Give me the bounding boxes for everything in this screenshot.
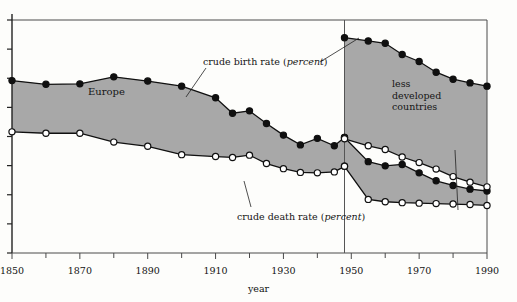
annotation-leader-line — [244, 181, 251, 207]
data-point-filled — [297, 142, 303, 148]
data-point-filled — [331, 143, 337, 149]
data-point-open — [280, 166, 286, 172]
data-point-open — [399, 154, 405, 160]
less-developed-countries-label: less developed countries — [392, 78, 462, 113]
data-point-filled — [314, 135, 320, 141]
data-point-open — [365, 143, 371, 149]
ldc-label-line-2: developed — [392, 90, 441, 101]
chart-canvas — [0, 0, 517, 302]
data-point-filled — [416, 170, 422, 176]
data-point-open — [450, 173, 456, 179]
europe-shaded-band — [12, 77, 345, 173]
data-point-filled — [212, 95, 218, 101]
x-axis-title: year — [0, 283, 517, 294]
death-label-italic: percent — [324, 211, 361, 222]
data-point-filled — [399, 161, 405, 167]
death-label-close: ) — [362, 211, 366, 222]
data-point-filled — [416, 58, 422, 64]
x-tick-label: 1890 — [136, 265, 160, 276]
data-point-filled — [263, 120, 269, 126]
data-point-open — [9, 129, 15, 135]
data-point-filled — [179, 83, 185, 89]
data-point-open — [263, 160, 269, 166]
data-point-open — [484, 202, 490, 208]
data-point-open — [145, 143, 151, 149]
data-point-open — [433, 166, 439, 172]
x-tick-label: 1990 — [475, 265, 499, 276]
x-tick-label: 1930 — [271, 265, 295, 276]
data-point-open — [416, 200, 422, 206]
data-point-open — [365, 196, 371, 202]
data-point-filled — [246, 108, 252, 114]
data-point-open — [467, 201, 473, 207]
data-point-filled — [382, 163, 388, 169]
data-point-open — [297, 169, 303, 175]
data-point-open — [77, 130, 83, 136]
crude-death-rate-label: crude death rate (percent) — [237, 211, 365, 222]
data-point-filled — [467, 186, 473, 192]
data-point-open — [433, 201, 439, 207]
data-point-filled — [467, 80, 473, 86]
data-point-filled — [229, 110, 235, 116]
data-point-filled — [77, 81, 83, 87]
data-point-filled — [9, 77, 15, 83]
data-point-open — [382, 146, 388, 152]
ldc-label-line-3: countries — [392, 101, 437, 112]
europe-region-label: Europe — [88, 86, 125, 97]
data-point-open — [382, 199, 388, 205]
data-point-filled — [399, 51, 405, 57]
data-point-filled — [145, 78, 151, 84]
death-label-text: crude death rate ( — [237, 211, 324, 222]
birth-label-italic: percent — [287, 56, 324, 67]
x-tick-label: 1950 — [339, 265, 363, 276]
data-point-open — [331, 169, 337, 175]
data-point-open — [212, 153, 218, 159]
data-point-open — [484, 184, 490, 190]
demographic-transition-chart: Europe less developed countries crude bi… — [0, 0, 517, 302]
ldc-label-line-1: less — [392, 78, 410, 89]
data-point-open — [314, 170, 320, 176]
data-point-filled — [365, 159, 371, 165]
crude-birth-rate-label: crude birth rate (percent) — [203, 56, 328, 67]
data-point-open — [179, 152, 185, 158]
x-tick-label: 1850 — [0, 265, 24, 276]
data-point-filled — [484, 83, 490, 89]
data-point-open — [399, 200, 405, 206]
data-point-filled — [111, 74, 117, 80]
data-point-open — [111, 139, 117, 145]
birth-label-close: ) — [324, 56, 328, 67]
data-point-filled — [365, 38, 371, 44]
data-point-open — [341, 163, 347, 169]
birth-label-text: crude birth rate ( — [203, 56, 287, 67]
data-point-open — [246, 152, 252, 158]
data-point-open — [229, 154, 235, 160]
data-point-filled — [433, 178, 439, 184]
data-point-open — [416, 159, 422, 165]
data-point-filled — [280, 132, 286, 138]
data-point-filled — [341, 35, 347, 41]
data-point-open — [467, 179, 473, 185]
data-point-filled — [382, 40, 388, 46]
data-point-open — [450, 201, 456, 207]
x-tick-label: 1970 — [407, 265, 431, 276]
data-point-filled — [450, 182, 456, 188]
x-tick-label: 1910 — [203, 265, 227, 276]
data-point-open — [341, 136, 347, 142]
data-point-filled — [43, 81, 49, 87]
data-point-filled — [433, 69, 439, 75]
data-point-open — [43, 130, 49, 136]
x-tick-label: 1870 — [68, 265, 92, 276]
